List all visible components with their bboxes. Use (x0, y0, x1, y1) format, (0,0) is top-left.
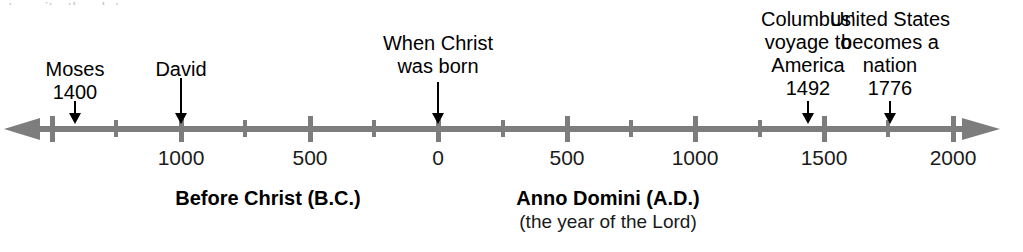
event-annotation: Moses1400 (46, 58, 105, 104)
axis-tick-minor (243, 120, 247, 137)
axis-tick-minor (758, 120, 762, 137)
axis-tick-minor (501, 120, 505, 137)
era-caption: Anno Domini (A.D.)(the year of the Lord) (516, 186, 699, 233)
era-title: Before Christ (B.C.) (175, 186, 361, 210)
cropped-caption-sliver: to write the dates. (8, 0, 218, 5)
event-label-line: United States (830, 8, 950, 31)
event-label-line: nation (830, 54, 950, 77)
axis-tick-minor (629, 120, 633, 137)
axis-arrow-left-icon (4, 118, 40, 140)
event-pointer-arrow-icon (801, 101, 815, 124)
axis-tick-label: 2000 (930, 146, 977, 170)
axis-tick-label: 1500 (801, 146, 848, 170)
event-label-line: becomes a (830, 31, 950, 54)
event-label-line: When Christ (383, 32, 493, 55)
axis-tick-major (951, 116, 956, 142)
axis-tick-major (822, 116, 827, 142)
axis-tick-major (565, 116, 570, 142)
axis-tick-major (50, 116, 55, 142)
event-pointer-arrow-icon (68, 101, 82, 124)
event-year: 1776 (830, 77, 950, 100)
era-caption: Before Christ (B.C.) (175, 186, 361, 210)
axis-tick-label: 500 (292, 146, 327, 170)
event-pointer-arrow-icon (431, 82, 445, 124)
axis-tick-label: 0 (432, 146, 444, 170)
axis-arrow-right-icon (962, 118, 1000, 140)
axis-tick-minor (114, 120, 118, 137)
era-title: Anno Domini (A.D.) (516, 186, 699, 210)
event-pointer-arrow-icon (174, 78, 188, 124)
axis-tick-label: 1000 (672, 146, 719, 170)
axis-tick-label: 1000 (158, 146, 205, 170)
event-annotation: When Christwas born (383, 32, 493, 78)
axis-tick-minor (372, 120, 376, 137)
axis-tick-major (693, 116, 698, 142)
timeline-figure: to write the dates. 10005000500100015002… (0, 0, 1023, 252)
era-subtitle: (the year of the Lord) (516, 210, 699, 233)
axis-tick-label: 500 (549, 146, 584, 170)
event-pointer-arrow-icon (883, 101, 897, 124)
axis-tick-major (308, 116, 313, 142)
event-label-line: Moses (46, 58, 105, 81)
event-label-line: was born (383, 55, 493, 78)
event-annotation: United Statesbecomes anation1776 (830, 8, 950, 100)
